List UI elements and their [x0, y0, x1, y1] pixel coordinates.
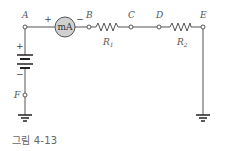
- battery-icon: [17, 55, 33, 68]
- meter-minus-sign: −: [76, 14, 84, 24]
- resistor-r2-label: R2: [176, 37, 188, 48]
- ground-left-icon: [18, 115, 32, 121]
- milliammeter: mA + −: [44, 14, 84, 37]
- node-c-label: C: [128, 10, 135, 20]
- node-e-label: E: [199, 10, 207, 20]
- node-a-label: A: [21, 10, 29, 20]
- battery-minus-sign: −: [16, 69, 24, 79]
- meter-label: mA: [57, 22, 73, 32]
- node-c-terminal: [129, 25, 133, 29]
- resistor-r2-icon: [170, 23, 191, 31]
- battery-plus-sign: +: [16, 41, 24, 51]
- node-f-terminal: [23, 93, 27, 97]
- node-f-label: F: [13, 90, 21, 100]
- resistor-r1-icon: [96, 23, 118, 31]
- ground-right-icon: [196, 115, 210, 121]
- node-b-terminal: [87, 25, 91, 29]
- node-d-terminal: [157, 25, 161, 29]
- node-e-terminal: [201, 25, 205, 29]
- figure-caption: 그림 4-13: [12, 132, 57, 147]
- resistor-r1: R1: [96, 23, 118, 48]
- node-a-terminal: [23, 25, 27, 29]
- meter-plus-sign: +: [44, 14, 52, 24]
- resistor-r1-label: R1: [102, 37, 114, 48]
- resistor-r2: R2: [170, 23, 191, 48]
- node-d-label: D: [155, 10, 163, 20]
- node-terminals: [23, 25, 205, 97]
- node-b-label: B: [85, 10, 93, 20]
- circuit-diagram: mA + − R1 R2 + − A B C D E F: [0, 0, 225, 151]
